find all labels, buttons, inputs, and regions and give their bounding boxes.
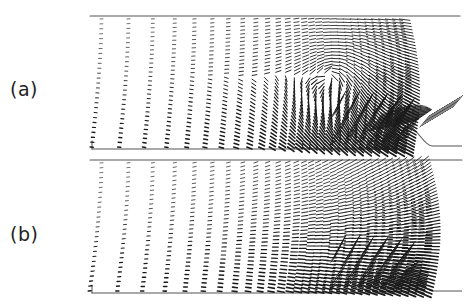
panel-a-label: (a) — [10, 78, 38, 100]
vector-field-figure — [0, 0, 475, 305]
panel-b-label: (b) — [10, 223, 38, 245]
panel-b-vector-field — [88, 156, 462, 297]
panel-a-vector-field — [90, 16, 463, 156]
